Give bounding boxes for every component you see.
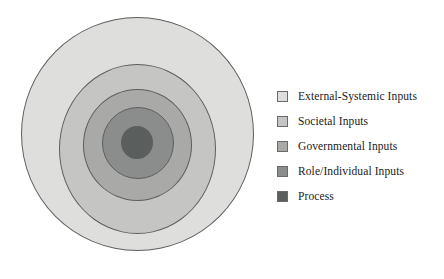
rings-graphic: [0, 0, 268, 279]
legend-swatch-icon: [277, 116, 288, 127]
legend-swatch-icon: [277, 166, 288, 177]
concentric-circles-diagram: External-Systemic Inputs Societal Inputs…: [0, 0, 444, 279]
legend-item-external-systemic-inputs: External-Systemic Inputs: [277, 86, 442, 107]
legend: External-Systemic Inputs Societal Inputs…: [277, 86, 442, 211]
legend-item-label: External-Systemic Inputs: [298, 90, 417, 103]
legend-item-label: Governmental Inputs: [298, 140, 397, 153]
legend-item-governmental-inputs: Governmental Inputs: [277, 136, 442, 157]
legend-swatch-icon: [277, 141, 288, 152]
legend-swatch-icon: [277, 91, 288, 102]
legend-item-label: Role/Individual Inputs: [298, 165, 404, 178]
legend-swatch-icon: [277, 191, 288, 202]
legend-item-label: Societal Inputs: [298, 115, 368, 128]
legend-item-process: Process: [277, 186, 442, 207]
legend-item-societal-inputs: Societal Inputs: [277, 111, 442, 132]
legend-item-role-individual-inputs: Role/Individual Inputs: [277, 161, 442, 182]
legend-item-label: Process: [298, 190, 334, 203]
ring-process: [121, 126, 153, 159]
